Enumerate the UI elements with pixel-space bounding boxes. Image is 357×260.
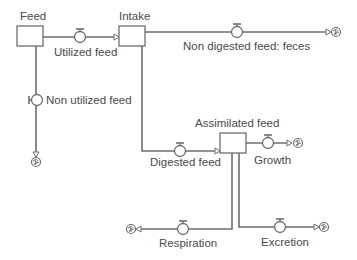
arrowhead-icon (114, 34, 119, 40)
stock-intake (119, 26, 145, 46)
cloud-sink-icon (294, 139, 303, 148)
valve-icon (75, 29, 86, 43)
valve-icon (29, 95, 43, 106)
stock-feed (17, 26, 43, 46)
flow-label-non-utilized-feed: Non utilized feed (46, 95, 132, 107)
flow-label-respiration: Respiration (159, 238, 217, 250)
flow-label-digested-feed: Digested feed (150, 157, 221, 169)
cloud-sink-icon (332, 28, 341, 37)
valve-icon (178, 221, 189, 235)
stock-label-intake: Intake (119, 11, 150, 23)
flow-digested-feed (142, 46, 220, 157)
stock-assimilated-feed (220, 133, 246, 153)
stock-flow-diagram (0, 0, 357, 260)
valve-icon (232, 24, 243, 38)
flow-non-utilized-feed (29, 46, 43, 167)
stock-label-feed: Feed (20, 11, 46, 23)
cloud-sink-icon (32, 158, 41, 167)
valve-icon (175, 143, 186, 157)
flow-label-growth: Growth (254, 155, 291, 167)
arrowhead-icon (33, 152, 39, 157)
valve-icon (263, 135, 274, 149)
cloud-sink-icon (320, 223, 329, 232)
arrowhead-icon (215, 148, 220, 154)
arrowhead-icon (314, 224, 319, 230)
flow-label-utilized-feed: Utilized feed (54, 47, 117, 59)
stock-label-assimilated-feed: Assimilated feed (195, 118, 279, 130)
arrowhead-icon (287, 140, 292, 146)
arrowhead-icon (136, 226, 141, 232)
flow-label-excretion: Excretion (261, 237, 309, 249)
flow-non-digested-feed (145, 24, 341, 38)
arrowhead-icon (326, 29, 331, 35)
flow-label-non-digested-feed: Non digested feed: feces (183, 41, 310, 53)
cloud-sink-icon (127, 225, 136, 234)
flow-growth (246, 135, 303, 149)
flow-utilized-feed (43, 29, 119, 43)
valve-icon (275, 219, 286, 233)
